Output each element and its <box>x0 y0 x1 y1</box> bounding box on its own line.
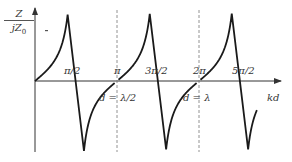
tick-label-pi: π <box>114 66 121 76</box>
tangent-impedance-chart <box>0 0 292 162</box>
x-axis-label: kd <box>267 93 279 103</box>
tick-label-two-pi: 2π <box>193 66 206 76</box>
tan-curve-branch-1 <box>35 15 115 151</box>
y-label-numerator: Z <box>4 8 34 21</box>
y-axis-label: Z jZ0 <box>4 8 34 36</box>
y-label-denominator: jZ0 <box>4 21 34 36</box>
tan-curve-branch-2 <box>119 14 197 150</box>
asymptote-label-half-lambda: d = λ/2 <box>99 93 136 103</box>
tick-label-three-pi-half: 3π/2 <box>145 66 168 76</box>
tick-label-five-pi-half: 5π/2 <box>232 66 255 76</box>
tick-label-pi-half: π/2 <box>64 66 80 76</box>
asymptote-label-lambda: d = λ <box>183 93 210 103</box>
stray-mark <box>45 30 48 31</box>
